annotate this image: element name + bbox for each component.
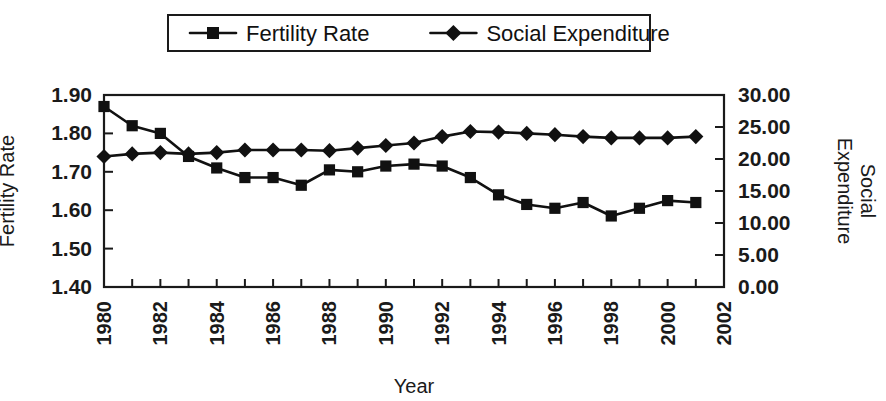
- chart-series: [96, 101, 703, 222]
- series-marker-square: [662, 195, 673, 206]
- left-axis-tick-label: 1.50: [51, 237, 92, 260]
- series-marker-diamond: [125, 146, 140, 161]
- plot-area: [104, 95, 724, 287]
- series-marker-square: [211, 162, 222, 173]
- series-marker-square: [380, 160, 391, 171]
- right-axis-tick-label: 10.00: [738, 211, 791, 234]
- series-marker-diamond: [576, 129, 591, 144]
- left-axis-tick-label: 1.40: [51, 275, 92, 298]
- series-marker-diamond: [350, 141, 365, 156]
- right-axis-tick-label: 15.00: [738, 179, 791, 202]
- chart-container: Fertility RateSocial Expenditure 1.401.5…: [0, 0, 886, 401]
- x-axis-tick-label: 1984: [206, 300, 228, 345]
- left-axis-tick-label: 1.90: [51, 83, 92, 106]
- plot-frame: [104, 95, 724, 287]
- series-marker-diamond: [237, 142, 252, 157]
- x-axis-tick-label: 1992: [431, 301, 453, 346]
- right-axis-title-line1: Social: [857, 164, 879, 218]
- series-marker-diamond: [463, 124, 478, 139]
- legend-item-label: Social Expenditure: [486, 21, 669, 46]
- x-axis-tick-label: 1994: [488, 300, 510, 345]
- series-marker-diamond: [660, 130, 675, 145]
- series-marker-square: [437, 160, 448, 171]
- series-marker-square: [606, 210, 617, 221]
- chart-legend: Fertility RateSocial Expenditure: [168, 15, 670, 51]
- series-fertility-rate: [98, 101, 701, 222]
- legend-item-label: Fertility Rate: [246, 21, 369, 46]
- series-marker-diamond: [632, 130, 647, 145]
- left-axis-title: Fertility Rate: [0, 135, 18, 247]
- x-axis-tick-label: 1980: [93, 301, 115, 346]
- series-marker-square: [521, 199, 532, 210]
- right-axis-tick-label: 20.00: [738, 147, 791, 170]
- right-axis-tick-label: 30.00: [738, 83, 791, 106]
- series-marker-square: [577, 197, 588, 208]
- x-axis-title: Year: [394, 375, 435, 397]
- series-marker-square: [465, 172, 476, 183]
- series-marker-square: [634, 203, 645, 214]
- series-marker-diamond: [406, 135, 421, 150]
- x-axis-tick-label: 1990: [375, 301, 397, 346]
- x-axis-tick-label: 1998: [600, 301, 622, 346]
- series-marker-diamond: [547, 127, 562, 142]
- series-marker-diamond: [96, 149, 111, 164]
- x-axis-tick-label: 1986: [262, 301, 284, 346]
- series-marker-square: [239, 172, 250, 183]
- left-axis-tick-label: 1.80: [51, 121, 92, 144]
- series-social-expenditure: [96, 124, 703, 164]
- series-marker-square: [493, 189, 504, 200]
- x-axis-tick-label: 1988: [318, 301, 340, 346]
- series-marker-square: [324, 164, 335, 175]
- series-marker-diamond: [322, 143, 337, 158]
- series-marker-diamond: [266, 142, 281, 157]
- series-marker-square: [155, 128, 166, 139]
- series-marker-square: [352, 166, 363, 177]
- series-marker-square: [408, 159, 419, 170]
- x-axis-tick-label: 1996: [544, 301, 566, 346]
- chart-axes: 1.401.501.601.701.801.900.005.0010.0015.…: [51, 83, 790, 346]
- series-marker-diamond: [491, 125, 506, 140]
- series-marker-square: [98, 101, 109, 112]
- series-marker-square: [207, 27, 219, 39]
- series-marker-diamond: [378, 138, 393, 153]
- left-axis-tick-label: 1.70: [51, 160, 92, 183]
- right-axis-tick-label: 5.00: [738, 243, 779, 266]
- series-marker-square: [267, 172, 278, 183]
- series-marker-square: [296, 180, 307, 191]
- x-axis-tick-label: 2002: [713, 301, 735, 346]
- series-marker-diamond: [604, 130, 619, 145]
- right-axis-title-line2: Expenditure: [834, 138, 856, 245]
- series-marker-square: [127, 120, 138, 131]
- series-marker-diamond: [153, 145, 168, 160]
- series-marker-square: [549, 203, 560, 214]
- x-axis-tick-label: 1982: [149, 301, 171, 346]
- chart-svg: Fertility RateSocial Expenditure 1.401.5…: [0, 0, 886, 401]
- left-axis-tick-label: 1.60: [51, 198, 92, 221]
- right-axis-tick-label: 0.00: [738, 275, 779, 298]
- series-marker-diamond: [688, 129, 703, 144]
- series-marker-diamond: [435, 129, 450, 144]
- series-marker-diamond: [519, 126, 534, 141]
- series-marker-square: [690, 197, 701, 208]
- series-marker-diamond: [209, 145, 224, 160]
- x-axis-tick-label: 2000: [657, 301, 679, 346]
- series-marker-diamond: [294, 142, 309, 157]
- right-axis-tick-label: 25.00: [738, 115, 791, 138]
